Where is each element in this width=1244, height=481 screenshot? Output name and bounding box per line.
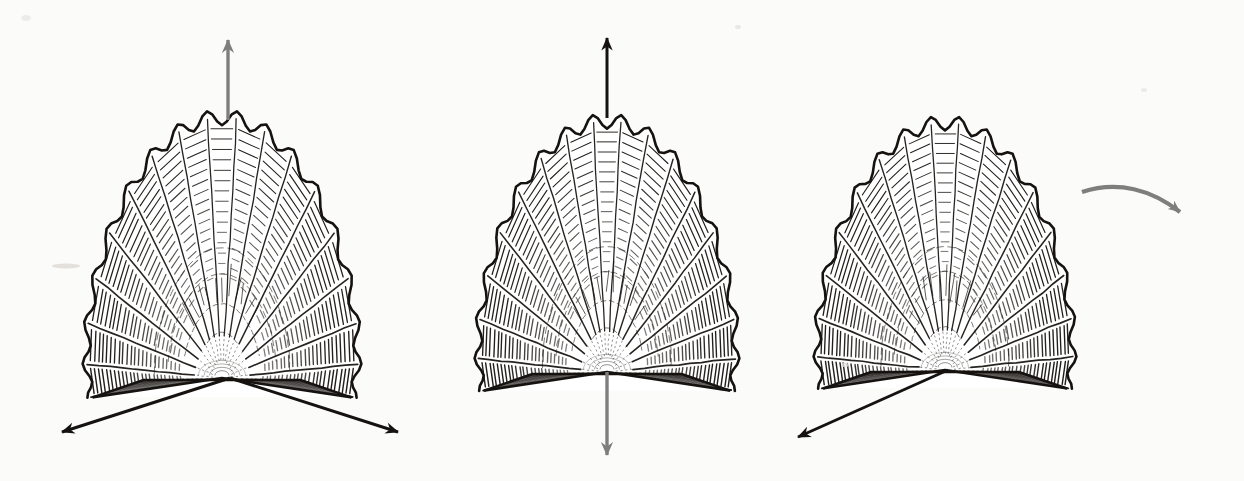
shell-diagram-svg (0, 0, 1244, 481)
panels-group (83, 111, 1077, 397)
figure-canvas (0, 0, 1244, 481)
